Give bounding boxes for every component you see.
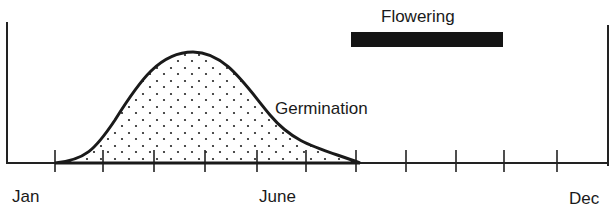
flowering-bar (351, 32, 503, 47)
flowering-label: Flowering (381, 7, 455, 27)
june-label: June (259, 187, 296, 207)
germination-label: Germination (275, 99, 368, 119)
jan-label: Jan (12, 187, 39, 207)
dec-label: Dec (569, 189, 599, 209)
